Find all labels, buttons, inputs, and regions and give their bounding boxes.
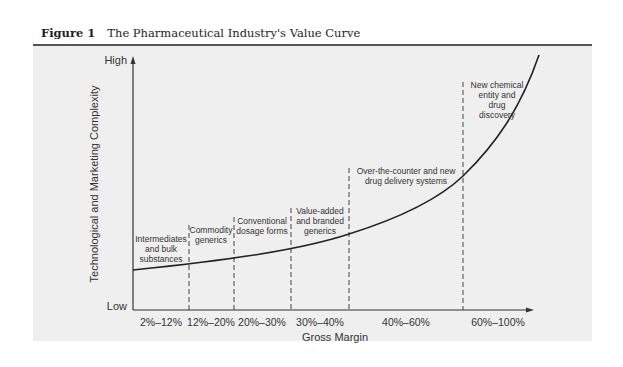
segment-label: New chemical bbox=[471, 80, 524, 90]
segment-label: generics bbox=[195, 235, 227, 245]
segment-label: Value-added bbox=[296, 206, 344, 216]
y-axis-title: Technological and Marketing Complexity bbox=[88, 85, 100, 282]
segment-label: drug bbox=[488, 100, 505, 110]
segment-label: Over-the-counter and new bbox=[357, 166, 457, 176]
segment-label: Commodity bbox=[190, 225, 234, 235]
segment-label: entity and bbox=[479, 90, 516, 100]
segment-label: Conventional bbox=[237, 216, 287, 226]
segment-label: and branded bbox=[296, 216, 344, 226]
segment-label: discovery bbox=[479, 110, 516, 120]
x-range-label: 30%–40% bbox=[296, 316, 344, 328]
x-range-label: 20%–30% bbox=[238, 316, 286, 328]
segment-label: drug delivery systems bbox=[365, 176, 447, 186]
y-low-label: Low bbox=[107, 300, 127, 312]
segment-label: generics bbox=[304, 226, 336, 236]
y-axis-arrow-icon bbox=[131, 56, 136, 64]
value-curve-chart: High Low Technological and Marketing Com… bbox=[0, 0, 623, 367]
y-high-label: High bbox=[104, 54, 127, 66]
x-axis-title: Gross Margin bbox=[302, 331, 368, 343]
segment-label: Intermediates bbox=[135, 234, 187, 244]
segment-label: substances bbox=[140, 254, 183, 264]
x-range-label: 2%–12% bbox=[140, 316, 182, 328]
x-range-label: 40%–60% bbox=[382, 316, 430, 328]
x-range-label: 60%–100% bbox=[471, 316, 525, 328]
segment-label: dosage forms bbox=[236, 226, 288, 236]
segment-label: and bulk bbox=[145, 244, 178, 254]
x-axis-arrow-icon bbox=[526, 308, 534, 313]
x-range-label: 12%–20% bbox=[187, 316, 235, 328]
